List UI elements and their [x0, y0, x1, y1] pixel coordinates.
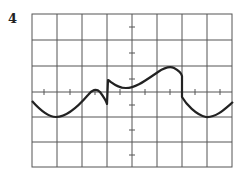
oscilloscope-graticule: [0, 0, 239, 171]
grid-lines: [32, 14, 232, 167]
